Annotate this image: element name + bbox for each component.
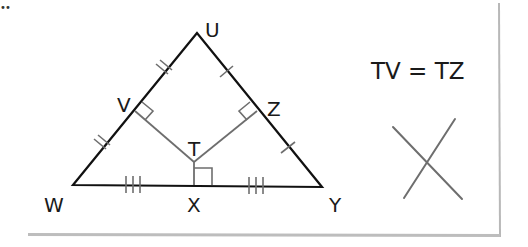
label-U: U [205, 18, 220, 42]
triangle-UWY [73, 33, 322, 187]
segment-TV [135, 111, 194, 162]
label-Y: Y [328, 193, 342, 217]
card-shadow [28, 3, 501, 237]
label-T: T [187, 137, 201, 161]
diagram-canvas: •• [0, 0, 528, 247]
triangle-outline [73, 33, 322, 187]
label-V: V [117, 93, 131, 117]
label-X: X [187, 193, 201, 217]
tick-marks-VW [94, 135, 110, 149]
segment-TZ [194, 111, 257, 162]
label-Z: Z [267, 97, 281, 121]
geometry-diagram: U W Y V Z T X TV = TZ [0, 0, 528, 247]
corner-mark: •• [0, 3, 10, 13]
cross-out-icon [393, 119, 462, 199]
equation-text: TV = TZ [370, 58, 464, 84]
label-W: W [44, 193, 64, 217]
right-angle-mark-X [194, 168, 212, 185]
